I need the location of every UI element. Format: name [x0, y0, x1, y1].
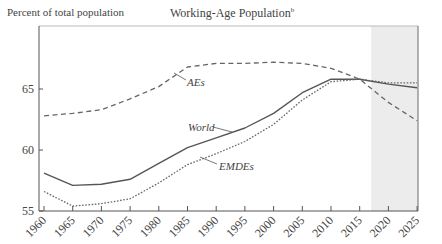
- x-tick-label: 1970: [80, 213, 107, 240]
- y-tick-label: 55: [22, 204, 34, 218]
- x-tick-label: 2005: [281, 213, 308, 240]
- projection-shade: [371, 26, 418, 211]
- x-tick-label: 2025: [395, 213, 422, 240]
- x-tick-label: 1975: [108, 213, 135, 240]
- x-tick-label: 1965: [51, 213, 78, 240]
- x-tick-label: 2015: [338, 213, 365, 240]
- series-line-aes: [44, 62, 417, 120]
- x-tick-label: 2020: [367, 213, 394, 240]
- y-tick-label: 60: [22, 143, 34, 157]
- x-tick-label: 1990: [194, 213, 221, 240]
- x-tick-label: 1995: [223, 213, 250, 240]
- series-line-emdes: [44, 79, 417, 206]
- series-label-emdes: EMDEs: [218, 160, 254, 172]
- y-tick-label: 65: [22, 82, 34, 96]
- x-tick-label: 2010: [309, 213, 336, 240]
- x-tick-label: 1985: [166, 213, 193, 240]
- chart-axes: [39, 26, 418, 211]
- series-labels: AEsWorldEMDEs: [174, 73, 254, 172]
- x-tick-label: 1980: [137, 213, 164, 240]
- y-axis-ticks: 556065: [22, 82, 43, 218]
- label-leader-emdes: [200, 157, 217, 164]
- line-chart: 556065 196019651970197519801985199019952…: [0, 0, 442, 244]
- series-lines: [44, 62, 417, 206]
- x-tick-label: 2000: [252, 213, 279, 240]
- series-label-world: World: [188, 121, 215, 133]
- label-leader-aes: [174, 73, 186, 80]
- projection-shaded-region: [371, 26, 418, 211]
- series-label-aes: AEs: [186, 76, 205, 88]
- label-leader-world: [213, 127, 232, 132]
